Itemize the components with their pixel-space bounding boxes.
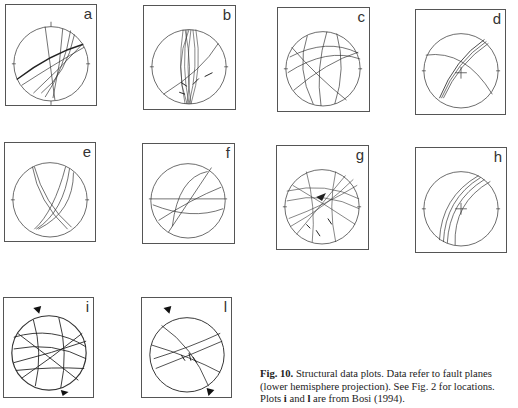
plot-label-l: l bbox=[224, 299, 227, 314]
stereonet-plot-f: f bbox=[142, 143, 235, 244]
stereonet-b-graphic bbox=[144, 6, 235, 109]
stereonet-e-graphic bbox=[5, 143, 95, 241]
stereonet-c-graphic bbox=[278, 8, 369, 111]
plot-label-i: i bbox=[86, 299, 89, 314]
stereonet-a-graphic bbox=[6, 5, 96, 105]
caption-label: Fig. 10. bbox=[260, 368, 293, 379]
plot-label-b: b bbox=[223, 7, 231, 22]
plot-label-h: h bbox=[494, 149, 502, 164]
plot-label-a: a bbox=[84, 6, 92, 21]
arrow-marker-north bbox=[164, 306, 172, 314]
caption-text-2: and bbox=[287, 393, 308, 404]
stereonet-f-graphic bbox=[143, 144, 234, 243]
plot-label-e: e bbox=[83, 144, 91, 159]
arrow-marker-south bbox=[61, 390, 69, 396]
stereonet-plot-i: i bbox=[3, 297, 94, 398]
stereonet-i-graphic bbox=[4, 298, 93, 397]
stereonet-plot-l: l bbox=[141, 297, 232, 398]
stereonet-plot-g: g bbox=[276, 145, 369, 250]
stereonet-plot-a: a bbox=[5, 4, 97, 106]
figure-caption: Fig. 10. Structural data plots. Data ref… bbox=[260, 368, 516, 406]
caption-text-3: are from Bosi (1994). bbox=[310, 393, 404, 404]
arrow-marker-south bbox=[207, 388, 215, 396]
stereonet-g-graphic bbox=[277, 146, 368, 249]
stereonet-d-graphic bbox=[416, 10, 505, 114]
stereonet-plot-h: h bbox=[415, 147, 507, 253]
plot-label-f: f bbox=[226, 145, 230, 160]
arrow-marker-north bbox=[33, 306, 41, 314]
plot-label-d: d bbox=[493, 11, 501, 26]
stereonet-plot-d: d bbox=[415, 9, 506, 115]
stereonet-h-graphic bbox=[416, 148, 506, 252]
plot-label-g: g bbox=[356, 147, 364, 162]
stereonet-plot-e: e bbox=[4, 142, 96, 242]
stereonet-plot-b: b bbox=[143, 5, 236, 110]
stereonet-l-graphic bbox=[142, 298, 231, 397]
plot-label-c: c bbox=[358, 9, 366, 24]
stereonet-plot-c: c bbox=[277, 7, 370, 112]
